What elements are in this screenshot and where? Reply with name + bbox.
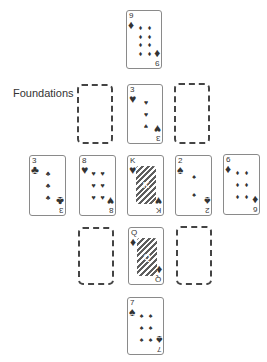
spade-icon: ♠ — [147, 312, 155, 319]
rank-label: 3 — [59, 206, 63, 214]
diamond-icon: ♦ — [137, 50, 145, 57]
spade-icon: ♠ — [138, 336, 146, 343]
face-letter: Q — [137, 252, 157, 262]
rank-label: 7 — [157, 345, 161, 353]
pips: ♠ ♠ — [185, 168, 203, 203]
pips: ♦♦ ♦♦ ♦♦ ♦♦ — [136, 23, 154, 58]
pips: ♣ ♣ ♣ — [39, 168, 57, 203]
diamond-icon: ♦ — [234, 193, 242, 200]
card-7-spades[interactable]: 7 ♠ ♠♠ ♠♠ ♠♠ ♠ 7 — [127, 297, 164, 355]
diamond-icon: ♦ — [137, 41, 145, 48]
card-q-diamonds[interactable]: Q ♦ Q ♦ Q — [128, 227, 164, 285]
rank-label: 9 — [155, 59, 159, 67]
rank-label: K — [156, 206, 161, 214]
queen-portrait: Q — [137, 238, 157, 276]
heart-icon: ♥ — [137, 123, 155, 130]
diamond-icon: ♦ — [130, 236, 136, 248]
foundations-label: Foundations — [13, 87, 74, 99]
pips: ♦♦ ♦♦ ♦♦ — [233, 167, 251, 202]
diamond-icon: ♦ — [137, 24, 145, 31]
card-8-hearts[interactable]: 8 ♥ ♥♥ ♥♥ ♥♥ ♥ 8 — [79, 155, 116, 216]
spade-icon: ♠ — [147, 336, 155, 343]
heart-icon: ♥ — [99, 182, 107, 189]
rank-label: Q — [155, 275, 161, 283]
diamond-icon: ♦ — [146, 41, 154, 48]
spade-icon: ♠ — [147, 324, 155, 331]
diamond-icon: ♦ — [243, 169, 251, 176]
club-icon: ♣ — [39, 170, 57, 177]
diamond-icon: ♦ — [128, 19, 134, 31]
heart-icon: ♥ — [99, 170, 107, 177]
club-icon: ♣ — [39, 182, 57, 189]
card-3-clubs[interactable]: 3 ♣ ♣ ♣ ♣ ♣ 3 — [29, 155, 66, 216]
diamond-icon: ♦ — [225, 163, 231, 175]
diamond-icon: ♦ — [234, 181, 242, 188]
card-2-spades[interactable]: 2 ♠ ♠ ♠ ♠ 2 — [175, 155, 212, 216]
card-6-diamonds[interactable]: 6 ♦ ♦♦ ♦♦ ♦♦ ♦ 6 — [223, 154, 260, 215]
heart-icon: ♥ — [90, 182, 98, 189]
foundation-slot-right[interactable] — [174, 83, 210, 144]
card-k-hearts[interactable]: K ♥ K ♥ K — [127, 155, 164, 216]
heart-icon: ♥ — [129, 93, 136, 105]
club-icon: ♣ — [39, 194, 57, 201]
spade-icon: ♠ — [129, 306, 135, 318]
king-portrait: K — [136, 166, 156, 204]
club-icon: ♣ — [31, 164, 39, 176]
card-3-hearts[interactable]: 3 ♥ ♥ ♥ ♥ ♥ 3 — [127, 84, 163, 144]
heart-icon: ♥ — [90, 170, 98, 177]
rank-label: 2 — [205, 206, 209, 214]
foundation-slot-left[interactable] — [77, 84, 113, 144]
heart-icon: ♥ — [90, 194, 98, 201]
pips: ♥ ♥ ♥ — [137, 97, 155, 132]
lower-slot-left[interactable] — [78, 227, 114, 285]
heart-icon: ♥ — [99, 194, 107, 201]
rank-label: 6 — [253, 205, 257, 213]
heart-icon: ♥ — [137, 111, 155, 118]
diamond-icon: ♦ — [234, 169, 242, 176]
card-9-diamonds[interactable]: 9 ♦ ♦♦ ♦♦ ♦♦ ♦♦ ♦ 9 — [126, 10, 162, 69]
pips: ♠♠ ♠♠ ♠♠ — [137, 310, 155, 345]
diamond-icon: ♦ — [146, 33, 154, 40]
rank-label: 3 — [156, 134, 160, 142]
heart-icon: ♥ — [81, 164, 88, 176]
diamond-icon: ♦ — [146, 24, 154, 31]
spade-icon: ♠ — [177, 164, 183, 176]
spade-icon: ♠ — [185, 191, 203, 198]
rank-label: 8 — [109, 206, 113, 214]
pips: ♥♥ ♥♥ ♥♥ — [89, 168, 107, 203]
lower-slot-right[interactable] — [176, 226, 212, 285]
diamond-icon: ♦ — [137, 33, 145, 40]
face-letter: K — [136, 180, 156, 190]
diamond-icon: ♦ — [243, 181, 251, 188]
spade-icon: ♠ — [138, 312, 146, 319]
diamond-icon: ♦ — [243, 193, 251, 200]
spade-icon: ♠ — [138, 324, 146, 331]
spade-icon: ♠ — [185, 173, 203, 180]
diamond-icon: ♦ — [146, 50, 154, 57]
heart-icon: ♥ — [137, 99, 155, 106]
